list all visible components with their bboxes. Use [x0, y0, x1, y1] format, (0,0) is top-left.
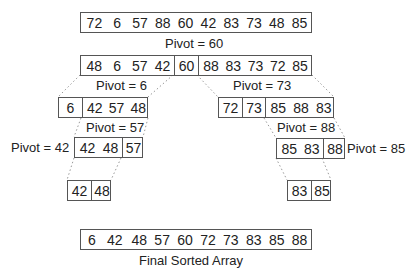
array-cell: 72: [197, 232, 220, 248]
partition-level2-left-box: 6 42 57 48: [58, 97, 148, 118]
array-cell: 48: [92, 183, 112, 199]
array-cell: 88: [200, 58, 222, 74]
initial-array-box: 72 6 57 88 60 42 83 73 48 85: [80, 12, 312, 33]
left-partition: 72: [219, 98, 242, 117]
pivot-label-60: Pivot = 60: [165, 36, 223, 51]
array-cell: 72: [219, 100, 242, 116]
right-partition: 88 83 73 72 85: [198, 56, 311, 75]
array-cell: 73: [243, 100, 265, 116]
pivot-cell: 6: [59, 98, 82, 117]
pivot-cell: 73: [242, 98, 265, 117]
partition-level4-right-box: 83 85: [287, 180, 331, 201]
array-cell: 42: [76, 140, 99, 156]
array-cell: 57: [129, 15, 152, 31]
pivot-cell: 57: [122, 138, 144, 157]
partition-level4-left-box: 42 48: [67, 180, 111, 201]
pivot-label-42: Pivot = 42: [11, 140, 69, 155]
array-cell: 85: [312, 183, 332, 199]
array-cell: 6: [106, 15, 129, 31]
array-cell: 57: [151, 232, 174, 248]
array-cell: 85: [289, 58, 311, 74]
pivot-label-6: Pivot = 6: [96, 78, 147, 93]
partition-level3-left-box: 42 48 57: [74, 137, 143, 158]
array-cell: 72: [83, 15, 106, 31]
array-cell: 83: [301, 141, 324, 157]
array-cell: 85: [265, 232, 288, 248]
array-cell: 88: [324, 141, 346, 157]
array-cell: 48: [265, 15, 288, 31]
array-cell: 85: [267, 100, 290, 116]
array-cell: 60: [174, 15, 197, 31]
array-cell: 60: [175, 58, 198, 74]
partition-level1-box: 48 6 57 42 60 88 83 73 72 85: [80, 55, 312, 76]
array-cell: 48: [99, 140, 122, 156]
array-cell: 88: [151, 15, 174, 31]
array-cell: 57: [129, 58, 152, 74]
array-cell: 48: [128, 232, 151, 248]
pivot-label-85: Pivot = 85: [347, 141, 405, 156]
array-cell: 6: [106, 58, 129, 74]
array-cell: 42: [197, 15, 220, 31]
pivot-cell: 60: [174, 56, 198, 75]
array-cell: 83: [288, 183, 311, 199]
partition-level2-right-box: 72 73 85 88 83: [218, 97, 334, 118]
array-cell: 83: [222, 58, 244, 74]
array-cell: 48: [83, 58, 106, 74]
partition-level3-right-box: 85 83 88: [276, 138, 345, 159]
pivot-label-57: Pivot = 57: [86, 120, 144, 135]
array-cell: 57: [123, 140, 144, 156]
array-cell: 88: [290, 100, 313, 116]
array-cell: 57: [106, 100, 128, 116]
left-partition: 48 6 57 42: [81, 56, 174, 75]
cell-segment: 48: [91, 181, 112, 200]
pivot-label-88: Pivot = 88: [277, 120, 335, 135]
array-cell: 42: [102, 232, 128, 248]
array-cell: 6: [59, 100, 82, 116]
array-cell: 42: [68, 183, 91, 199]
array-cell: 48: [127, 100, 149, 116]
array-cell: 73: [243, 15, 266, 31]
right-partition: 85 88 83: [265, 98, 335, 117]
array-cell: 85: [288, 15, 311, 31]
array-cell: 73: [219, 232, 242, 248]
array-cell: 85: [278, 141, 301, 157]
pivot-cell: 88: [323, 139, 346, 158]
array-cell: 60: [174, 232, 197, 248]
final-sorted-array-box: 6 42 48 57 60 72 73 83 85 88: [80, 229, 312, 250]
array-cell: 83: [220, 15, 243, 31]
array-cell: 6: [82, 232, 102, 248]
array-cell: 42: [151, 58, 174, 74]
final-sorted-array-label: Final Sorted Array: [139, 253, 243, 268]
pivot-label-73: Pivot = 73: [233, 78, 291, 93]
right-partition: 42 57 48: [82, 98, 149, 117]
cell-segment: 85: [311, 181, 332, 200]
array-cell: 42: [84, 100, 106, 116]
left-partition: 42 48: [75, 138, 122, 157]
array-cell: 83: [312, 100, 335, 116]
array-cell: 83: [242, 232, 265, 248]
array-cell: 73: [244, 58, 266, 74]
cell-segment: 83: [288, 181, 311, 200]
cell-segment: 42: [68, 181, 91, 200]
array-cell: 88: [288, 232, 311, 248]
array-cell: 72: [267, 58, 289, 74]
left-partition: 85 83: [277, 139, 323, 158]
